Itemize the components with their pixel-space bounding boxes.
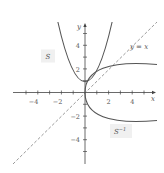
identity-line-label: y = x — [129, 43, 148, 51]
x-tick-label: 4 — [130, 98, 134, 106]
x-tick-label: −2 — [53, 98, 63, 106]
x-tick-label: 2 — [107, 98, 111, 106]
x-axis-label: x — [151, 95, 155, 103]
y-tick-label: 4 — [76, 42, 80, 50]
curve-s-label: S — [46, 53, 51, 61]
function-inverse-diagram: −4 −2 2 4 4 2 −2 −4 x y S S−1 y = x — [0, 0, 164, 173]
y-axis-label: y — [76, 23, 82, 31]
x-axis-arrow-icon — [152, 91, 156, 94]
y-axis-arrow-icon — [83, 23, 86, 27]
x-tick-label: −4 — [29, 98, 39, 106]
y-tick-label: 2 — [76, 66, 80, 74]
y-tick-label: −4 — [70, 136, 80, 144]
y-tick-label: −2 — [70, 113, 80, 121]
